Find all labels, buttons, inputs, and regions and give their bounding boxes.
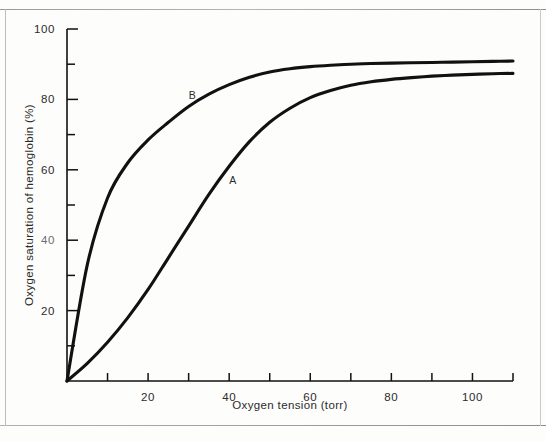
y-axis-tick-labels: 20406080100 xyxy=(34,23,55,317)
y-tick-label: 60 xyxy=(41,164,55,176)
figure-page: 20406080100 20406080100 A B Oxygen tensi… xyxy=(0,0,546,441)
y-tick-label: 40 xyxy=(41,234,55,246)
chart-svg: 20406080100 20406080100 A B Oxygen tensi… xyxy=(0,0,546,441)
x-tick-label: 100 xyxy=(462,391,483,403)
y-tick-label: 80 xyxy=(41,93,55,105)
x-axis-title: Oxygen tension (torr) xyxy=(232,399,347,411)
curve-a-label: A xyxy=(229,174,236,186)
oxygen-dissociation-chart: 20406080100 20406080100 A B Oxygen tensi… xyxy=(0,0,546,441)
y-tick-label: 20 xyxy=(41,305,55,317)
y-tick-label: 100 xyxy=(34,23,55,35)
y-axis-ticks xyxy=(67,29,78,346)
x-axis-ticks xyxy=(108,373,513,381)
curve-b-label: B xyxy=(189,89,196,101)
x-tick-label: 20 xyxy=(141,391,155,403)
y-axis-title: Oxygen saturation of hemoglobin (%) xyxy=(23,104,35,306)
curve-a xyxy=(67,73,513,381)
x-tick-label: 80 xyxy=(384,391,398,403)
